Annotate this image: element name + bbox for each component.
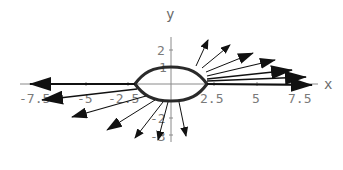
arrow	[207, 84, 312, 85]
arrow	[179, 102, 186, 136]
x-tick-label: 7.5	[288, 91, 311, 106]
x-tick-label: -5	[77, 91, 93, 106]
arrow	[196, 40, 208, 66]
axes	[20, 37, 318, 142]
x-tick-label: 2.5	[200, 91, 223, 106]
tick-labels: -7.5 -5 -2.5 2.5 5 7.5 2 1 -2 -3 x y	[19, 6, 332, 144]
x-tick-label: -7.5	[19, 91, 50, 106]
y-tick-label: -3	[150, 129, 166, 144]
x-tick-label: -2.5	[108, 91, 139, 106]
arrow	[206, 53, 253, 72]
y-axis-label: y	[166, 6, 174, 22]
x-tick-label: 5	[252, 91, 260, 106]
y-tick-label: 2	[157, 43, 165, 58]
arrow	[202, 45, 230, 68]
x-axis-label: x	[324, 76, 332, 92]
vector-plot: -7.5 -5 -2.5 2.5 5 7.5 2 1 -2 -3 x y	[0, 0, 343, 170]
